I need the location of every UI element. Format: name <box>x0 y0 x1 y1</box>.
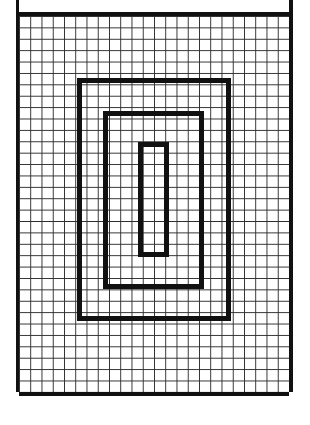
figure-page <box>0 0 310 425</box>
top-margin-band <box>19 0 289 16</box>
inner-rectangle <box>138 142 169 257</box>
graph-paper-sheet <box>16 0 293 392</box>
grid-area <box>19 16 289 396</box>
